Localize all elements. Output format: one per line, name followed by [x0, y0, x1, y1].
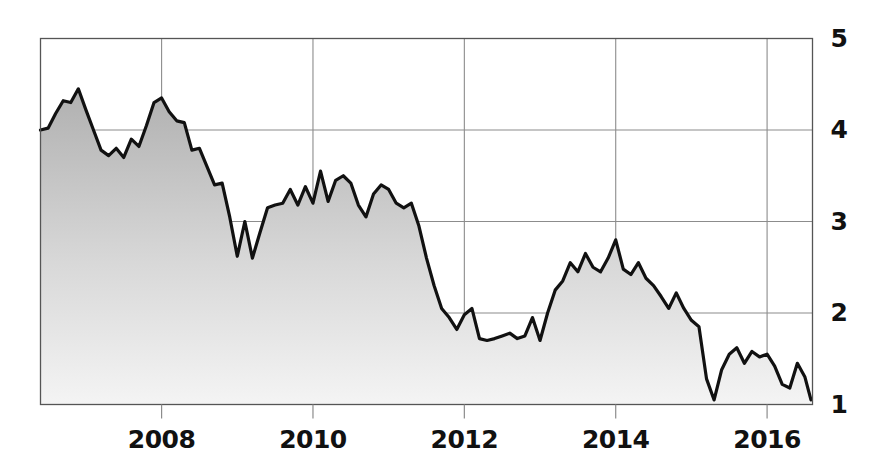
- chart-canvas: [0, 0, 886, 473]
- x-axis-tick-label: 2008: [128, 427, 196, 452]
- y-axis-tick-label: 1: [831, 392, 848, 417]
- x-axis-tick-label: 2010: [279, 427, 347, 452]
- y-axis-tick-label: 2: [831, 300, 848, 325]
- y-axis-tick-label: 5: [831, 26, 848, 51]
- y-axis-tick-label: 3: [831, 209, 848, 234]
- x-axis-tick-label: 2014: [582, 427, 650, 452]
- line-chart: 1234520082010201220142016: [0, 0, 886, 473]
- x-axis-tick-label: 2016: [733, 427, 801, 452]
- x-axis-tick-label: 2012: [431, 427, 499, 452]
- axis-ticks: [162, 405, 767, 419]
- area-fill: [41, 89, 811, 405]
- y-axis-tick-label: 4: [831, 117, 848, 142]
